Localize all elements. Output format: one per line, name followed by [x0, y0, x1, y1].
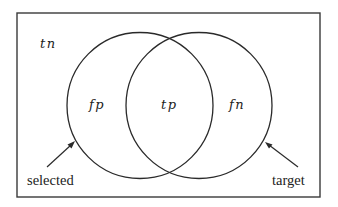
selected-callout-label: selected [27, 172, 74, 188]
target-set-circle [126, 33, 272, 179]
true-negative-label: tn [40, 36, 57, 51]
true-positive-label: tp [161, 97, 178, 112]
false-negative-label: fn [228, 97, 245, 112]
venn-diagram: tn fp tp fn selected target [0, 0, 338, 207]
target-arrow [265, 142, 298, 167]
false-positive-label: fp [88, 97, 105, 112]
target-callout-label: target [272, 172, 305, 188]
selected-arrow [47, 141, 75, 167]
